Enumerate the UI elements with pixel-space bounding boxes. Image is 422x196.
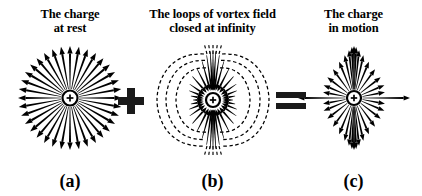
radial-field-diagram-a xyxy=(5,42,135,154)
panel-c-title: The charge in motion xyxy=(285,8,422,35)
panel-c-title-line2: in motion xyxy=(285,22,422,36)
plus-bar-vertical xyxy=(127,88,135,114)
panel-a-label: (a) xyxy=(0,171,140,192)
physics-field-diagram: The charge at rest (a) The loops of vort… xyxy=(0,0,422,196)
equals-bar-top xyxy=(276,92,306,98)
panel-a-title: The charge at rest xyxy=(0,8,140,35)
panel-a-title-line1: The charge xyxy=(0,8,140,22)
panel-c-label: (c) xyxy=(285,171,422,192)
panel-b-title-line2: closed at infinity xyxy=(140,22,285,36)
panel-b-title: The loops of vortex field closed at infi… xyxy=(140,8,285,35)
panel-vortex-loops: The loops of vortex field closed at infi… xyxy=(140,0,285,196)
panel-b-label: (b) xyxy=(140,171,285,192)
plus-operator-icon xyxy=(118,88,144,114)
equals-operator-icon xyxy=(276,92,306,110)
compressed-field-diagram-c xyxy=(290,42,418,154)
panel-a-title-line2: at rest xyxy=(0,22,140,36)
panel-b-title-line1: The loops of vortex field xyxy=(140,8,285,22)
vortex-loop-diagram-b xyxy=(145,42,281,158)
equals-bar-bottom xyxy=(276,103,306,109)
panel-c-title-line1: The charge xyxy=(285,8,422,22)
